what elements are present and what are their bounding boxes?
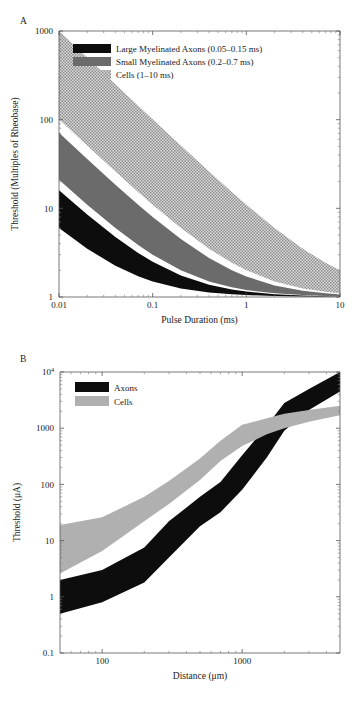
figure-root: A 0.010.11101101001000Pulse Duration (ms… — [0, 0, 356, 706]
x-tick-label: 0.01 — [51, 300, 67, 310]
legend-swatch — [73, 57, 111, 66]
band-axons — [60, 372, 340, 614]
y-tick-label: 0.1 — [43, 648, 54, 658]
y-tick-label: 100 — [40, 115, 54, 125]
x-tick-label: 1 — [244, 300, 249, 310]
legend-label: Axons — [114, 383, 138, 393]
y-tick-label: 100 — [41, 480, 55, 490]
y-tick-label: 1 — [50, 592, 55, 602]
x-tick-label: 1000 — [233, 656, 252, 666]
legend: Large Myelinated Axons (0.05–0.15 ms)Sma… — [73, 44, 262, 80]
legend-swatch — [75, 396, 109, 406]
y-tick-label: 10 — [45, 536, 55, 546]
y-axis-label: Threshold (Multiples of Rheobase) — [10, 97, 21, 230]
y-axis-label: Threshold (μA) — [12, 483, 23, 542]
x-tick-label: 10 — [336, 300, 346, 310]
y-tick-label: 10 — [44, 204, 54, 214]
panel-a: A 0.010.11101101001000Pulse Duration (ms… — [0, 0, 356, 340]
x-tick-label: 100 — [95, 656, 109, 666]
y-tick-label: 1000 — [36, 423, 55, 433]
x-tick-label: 0.1 — [147, 300, 158, 310]
legend-swatch — [73, 70, 111, 79]
x-axis-label: Pulse Duration (ms) — [161, 315, 238, 326]
panel-a-plot: 0.010.11101101001000Pulse Duration (ms)T… — [0, 0, 356, 340]
panel-b: B 10010000.11101001000104Distance (μm)Th… — [0, 340, 356, 706]
panel-b-letter: B — [20, 354, 27, 364]
legend-swatch — [73, 44, 111, 53]
legend: AxonsCells — [75, 382, 138, 407]
y-tick-label: 104 — [42, 366, 54, 377]
y-tick-label: 1 — [49, 292, 54, 302]
y-tick-label: 1000 — [35, 26, 54, 36]
legend-label: Cells — [114, 397, 133, 407]
legend-label: Cells (1–10 ms) — [116, 70, 174, 80]
panel-a-letter: A — [20, 16, 27, 26]
panel-b-plot: 10010000.11101001000104Distance (μm)Thre… — [0, 340, 356, 706]
legend-swatch — [75, 382, 109, 392]
x-axis-label: Distance (μm) — [173, 671, 227, 682]
legend-label: Small Myelinated Axons (0.2–0.7 ms) — [116, 57, 254, 67]
band-cells — [60, 406, 340, 574]
legend-label: Large Myelinated Axons (0.05–0.15 ms) — [116, 44, 262, 54]
